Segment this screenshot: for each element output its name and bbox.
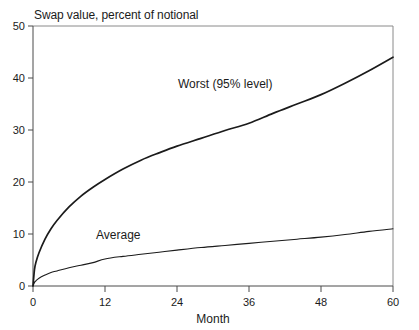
x-tick-label-0: 0	[30, 296, 36, 308]
x-tick-label-24: 24	[171, 296, 183, 308]
x-axis-title: Month	[196, 312, 229, 326]
y-axis-ticks	[28, 26, 33, 286]
x-axis-ticks	[33, 286, 393, 292]
y-tick-label-0: 0	[19, 280, 25, 292]
y-tick-label-10: 10	[13, 228, 25, 240]
series-line-worst	[33, 57, 393, 286]
x-tick-label-60: 60	[387, 296, 399, 308]
series-line-average	[33, 229, 393, 286]
y-tick-label-20: 20	[13, 176, 25, 188]
y-tick-label-30: 30	[13, 124, 25, 136]
x-tick-label-48: 48	[315, 296, 327, 308]
chart-page: Swap value, percent of notional 0 10 20 …	[0, 0, 419, 330]
series-annotation-average: Average	[96, 228, 141, 242]
y-tick-label-40: 40	[13, 72, 25, 84]
y-tick-label-50: 50	[13, 20, 25, 32]
x-tick-label-12: 12	[99, 296, 111, 308]
chart-plot-area: 0 10 20 30 40 50 0 12 24 36 48 60 Month …	[0, 0, 419, 330]
x-tick-label-36: 36	[243, 296, 255, 308]
series-annotation-worst: Worst (95% level)	[178, 77, 272, 91]
